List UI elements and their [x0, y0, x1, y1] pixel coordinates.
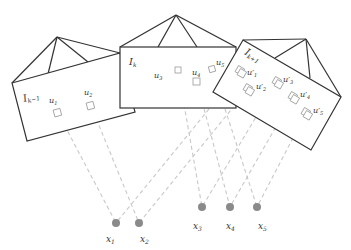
camera-k-minus-1: Ik−1 u1 u2 — [12, 37, 135, 141]
point-labels: x1 x2 x3 x4 x5 — [106, 221, 267, 245]
svg-text:x4: x4 — [226, 221, 235, 232]
svg-text:x1: x1 — [106, 234, 115, 245]
multi-view-geometry-diagram: Ik−1 u1 u2 Ik u3 u4 u5 — [0, 0, 351, 250]
world-points — [112, 203, 261, 227]
point-x4 — [226, 203, 234, 211]
point-x3 — [198, 203, 206, 211]
point-x2 — [135, 219, 143, 227]
point-x1 — [112, 219, 120, 227]
svg-text:x3: x3 — [193, 221, 202, 232]
svg-text:x2: x2 — [140, 234, 149, 245]
point-x5 — [253, 203, 261, 211]
svg-text:x5: x5 — [258, 221, 267, 232]
